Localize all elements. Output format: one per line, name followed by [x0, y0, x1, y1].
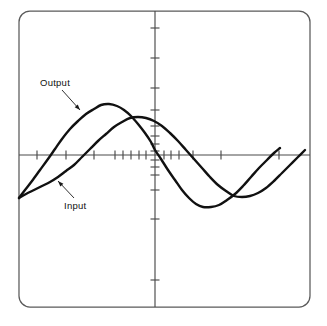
- waveform-curves: [19, 104, 305, 207]
- output-curve-label: Output: [40, 77, 70, 88]
- input-curve-label: Input: [64, 200, 86, 211]
- waveform-figure: Output Input: [0, 0, 327, 326]
- vertical-axis: [151, 11, 160, 307]
- horizontal-axis: [19, 151, 310, 160]
- curve-annotations: Output Input: [40, 77, 86, 211]
- input-curve: [19, 117, 305, 198]
- annotation-input: Input: [58, 181, 86, 211]
- annotation-output: Output: [40, 77, 80, 110]
- plot-canvas: Output Input: [0, 0, 327, 326]
